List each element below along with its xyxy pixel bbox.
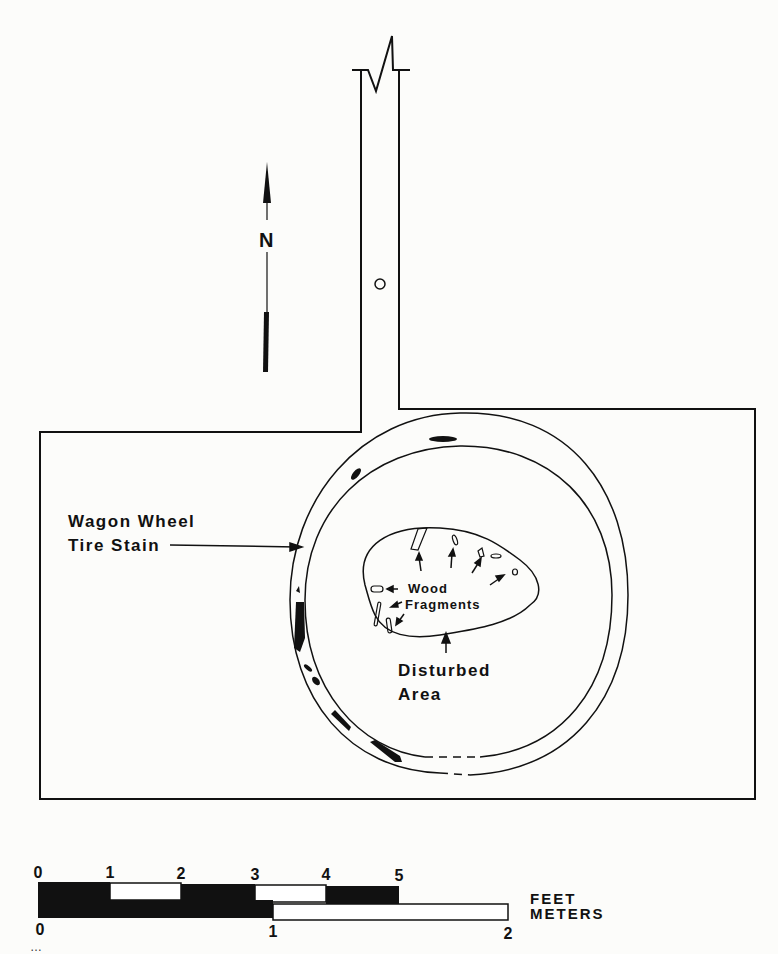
wood-label-line2: Fragments xyxy=(405,597,480,612)
disturbed-label-line2: Area xyxy=(398,685,442,704)
meter-tick-0: 0 xyxy=(36,921,45,938)
feet-tick-1: 1 xyxy=(106,864,115,881)
feet-tick-2: 2 xyxy=(177,865,186,882)
figure-caption-fragment: … xyxy=(30,940,48,954)
meter-tick-1: 1 xyxy=(269,923,278,940)
north-arrow-icon: N xyxy=(259,162,275,372)
feet-tick-4: 4 xyxy=(322,866,331,883)
feet-tick-0: 0 xyxy=(34,864,43,881)
tire-stain-label-line2: Tire Stain xyxy=(68,536,160,555)
scale-bar: 0 1 2 3 4 5 0 1 2 FEET METERS xyxy=(34,864,605,942)
meter-tick-2: 2 xyxy=(504,925,513,942)
feet-tick-3: 3 xyxy=(251,866,260,883)
wood-label-line1: Wood xyxy=(408,581,448,596)
site-plan-figure: N xyxy=(0,0,778,954)
north-label: N xyxy=(259,229,275,251)
disturbed-area-outline xyxy=(363,528,538,637)
tire-stain-label-line1: Wagon Wheel xyxy=(68,512,195,531)
small-feature-circle xyxy=(375,279,385,289)
meters-unit-label: METERS xyxy=(530,905,605,922)
feet-tick-5: 5 xyxy=(395,867,404,884)
disturbed-label-line1: Disturbed xyxy=(398,661,491,680)
